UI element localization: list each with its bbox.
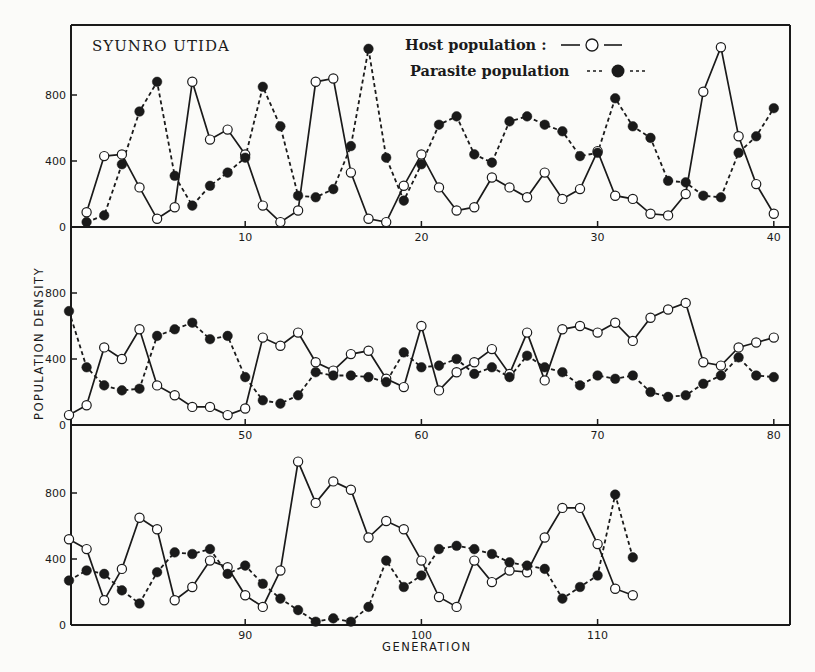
host-marker	[205, 556, 214, 565]
host-marker	[558, 503, 567, 512]
parasite-marker	[293, 391, 303, 401]
parasite-marker	[522, 561, 532, 571]
host-marker	[188, 582, 197, 591]
parasite-marker	[82, 566, 92, 576]
host-marker	[153, 525, 162, 534]
x-axis-title: GENERATION	[382, 640, 472, 654]
parasite-marker	[487, 363, 497, 373]
parasite-marker	[258, 82, 268, 92]
x-tick-label: 70	[591, 429, 605, 442]
host-marker	[276, 341, 285, 350]
host-marker	[434, 386, 443, 395]
parasite-marker	[716, 371, 726, 381]
parasite-marker	[329, 184, 339, 194]
host-marker	[170, 203, 179, 212]
parasite-marker	[663, 176, 673, 186]
parasite-marker	[575, 381, 585, 391]
parasite-marker	[381, 556, 391, 566]
parasite-marker	[188, 549, 198, 559]
host-marker	[540, 168, 549, 177]
host-marker	[664, 305, 673, 314]
parasite-marker	[64, 576, 74, 586]
x-tick-label: 40	[767, 231, 781, 244]
host-marker	[82, 208, 91, 217]
y-tick-label: 400	[45, 553, 66, 566]
parasite-marker	[170, 548, 180, 558]
host-marker	[470, 203, 479, 212]
parasite-marker	[258, 396, 268, 406]
parasite-marker	[734, 353, 744, 363]
host-marker	[399, 383, 408, 392]
host-marker	[470, 358, 479, 367]
parasite-marker	[205, 334, 215, 344]
y-tick-label: 400	[45, 155, 66, 168]
host-marker	[205, 135, 214, 144]
parasite-marker	[152, 331, 162, 341]
host-marker	[311, 498, 320, 507]
parasite-marker	[646, 133, 656, 143]
parasite-marker	[99, 381, 109, 391]
parasite-line	[69, 495, 633, 622]
host-marker	[170, 391, 179, 400]
host-marker	[329, 477, 338, 486]
parasite-marker	[188, 201, 198, 211]
panel-2: 040080050607080	[45, 227, 790, 442]
y-tick-label: 0	[59, 619, 66, 632]
host-marker	[417, 150, 426, 159]
parasite-marker	[505, 117, 515, 127]
host-marker	[611, 584, 620, 593]
parasite-marker	[329, 614, 339, 624]
parasite-marker	[663, 392, 673, 402]
parasite-marker	[452, 541, 462, 551]
host-marker	[205, 402, 214, 411]
legend-parasite-label: Parasite population	[410, 62, 570, 79]
host-marker	[241, 404, 250, 413]
y-tick-label: 800	[45, 487, 66, 500]
host-marker	[64, 535, 73, 544]
legend-host-symbol-icon	[561, 39, 622, 51]
parasite-marker	[470, 150, 480, 160]
host-marker	[294, 457, 303, 466]
parasite-marker	[276, 594, 286, 604]
parasite-marker	[540, 120, 550, 130]
host-marker	[223, 125, 232, 134]
host-marker	[487, 345, 496, 354]
host-marker	[470, 556, 479, 565]
host-marker	[611, 191, 620, 200]
host-marker	[646, 313, 655, 322]
host-marker	[100, 343, 109, 352]
host-marker	[769, 209, 778, 218]
host-marker	[276, 218, 285, 227]
parasite-marker	[699, 379, 709, 389]
parasite-marker	[522, 112, 532, 122]
host-marker	[346, 485, 355, 494]
y-axis-title: POPULATION DENSITY	[32, 267, 46, 420]
host-marker	[153, 214, 162, 223]
host-marker	[117, 564, 126, 573]
x-tick-label: 60	[414, 429, 428, 442]
parasite-marker	[346, 371, 356, 381]
parasite-marker	[681, 391, 691, 401]
parasite-marker	[575, 582, 585, 592]
parasite-marker	[681, 178, 691, 188]
parasite-marker	[470, 369, 480, 379]
parasite-marker	[258, 579, 268, 589]
parasite-marker	[311, 367, 321, 377]
parasite-marker	[170, 171, 180, 181]
host-marker	[258, 602, 267, 611]
parasite-marker	[276, 399, 286, 409]
parasite-marker	[610, 490, 620, 500]
parasite-marker	[452, 354, 462, 364]
x-tick-label: 50	[238, 429, 252, 442]
host-marker	[117, 354, 126, 363]
host-marker	[628, 194, 637, 203]
host-marker	[734, 343, 743, 352]
parasite-marker	[434, 361, 444, 371]
host-marker	[364, 533, 373, 542]
parasite-marker	[329, 371, 339, 381]
host-marker	[382, 218, 391, 227]
host-marker	[540, 376, 549, 385]
parasite-marker	[628, 553, 638, 563]
x-tick-label: 30	[591, 231, 605, 244]
parasite-marker	[558, 594, 568, 604]
